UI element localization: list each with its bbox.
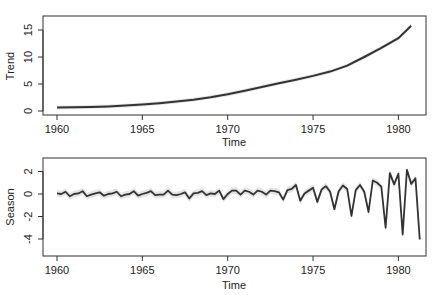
trend-confidence-band: [57, 24, 411, 110]
x-tick-label: 1960: [45, 123, 69, 135]
y-tick-label: 2: [22, 168, 34, 174]
season-y-axis: -4-202: [22, 168, 43, 243]
season-confidence-band: [57, 166, 420, 243]
trend-line: [57, 26, 411, 108]
y-tick-label: 5: [22, 81, 34, 87]
trend-panel: 051015 19601965197019751980 Trend Time: [4, 16, 426, 148]
x-tick-label: 1975: [301, 264, 325, 276]
trend-y-axis: 051015: [22, 24, 43, 114]
x-tick-label: 1965: [130, 123, 154, 135]
x-tick-label: 1960: [45, 264, 69, 276]
season-y-label: Season: [4, 188, 16, 225]
y-tick-label: 15: [22, 24, 34, 36]
y-tick-label: 10: [22, 51, 34, 63]
x-tick-label: 1975: [301, 123, 325, 135]
trend-x-label: Time: [222, 136, 246, 148]
x-tick-label: 1970: [215, 264, 239, 276]
y-tick-label: -4: [22, 234, 34, 244]
y-tick-label: 0: [22, 108, 34, 114]
x-tick-label: 1965: [130, 264, 154, 276]
season-line: [57, 170, 420, 240]
season-panel: -4-202 19601965197019751980 Season Time: [4, 158, 426, 291]
x-tick-label: 1980: [386, 123, 410, 135]
x-tick-label: 1980: [386, 264, 410, 276]
season-x-label: Time: [222, 279, 246, 291]
x-tick-label: 1970: [215, 123, 239, 135]
trend-y-label: Trend: [4, 52, 16, 80]
y-tick-label: -2: [22, 212, 34, 222]
decomposition-chart: 051015 19601965197019751980 Trend Time -…: [0, 0, 442, 295]
season-x-axis: 19601965197019751980: [45, 256, 411, 276]
trend-x-axis: 19601965197019751980: [45, 115, 411, 135]
y-tick-label: 0: [22, 191, 34, 197]
trend-plot-frame: [43, 16, 426, 115]
